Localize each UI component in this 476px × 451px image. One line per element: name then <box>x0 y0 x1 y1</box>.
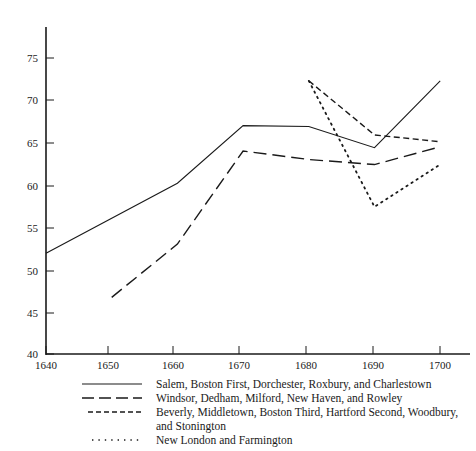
chart-legend: Salem, Boston First, Dorchester, Roxbury… <box>80 377 472 447</box>
x-tick-label-1700: 1700 <box>429 359 452 371</box>
legend-label-windsor: Windsor, Dedham, Milford, New Haven, and… <box>156 391 402 405</box>
legend-item-windsor: Windsor, Dedham, Milford, New Haven, and… <box>80 391 472 405</box>
legend-label-salem: Salem, Boston First, Dorchester, Roxbury… <box>156 377 431 391</box>
legend-item-salem: Salem, Boston First, Dorchester, Roxbury… <box>80 377 472 391</box>
x-axis-ticks <box>46 346 440 354</box>
y-tick-label-50: 50 <box>27 265 39 277</box>
x-tick-label-1660: 1660 <box>162 359 185 371</box>
x-tick-label-1690: 1690 <box>362 359 385 371</box>
legend-label-beverly: Beverly, Middletown, Boston Third, Hartf… <box>156 405 458 419</box>
legend-item-beverly: Beverly, Middletown, Boston Third, Hartf… <box>80 405 472 419</box>
x-tick-label-1670: 1670 <box>228 359 251 371</box>
data-series-group <box>46 81 440 298</box>
legend-key-solid <box>80 377 156 391</box>
chart-figure: 75 70 65 60 55 50 45 40 1640 1650 1660 1… <box>0 0 476 451</box>
y-tick-label-75: 75 <box>27 52 39 64</box>
legend-item-newlondon: New London and Farmington <box>80 433 472 447</box>
y-tick-label-70: 70 <box>27 94 39 106</box>
legend-key-long-dash <box>80 391 156 405</box>
series-line-4 <box>309 81 440 207</box>
y-tick-label-65: 65 <box>27 137 39 149</box>
y-tick-label-60: 60 <box>27 180 39 192</box>
y-tick-label-55: 55 <box>27 222 39 234</box>
legend-label-newlondon: New London and Farmington <box>156 433 292 447</box>
series-line-2 <box>112 147 441 298</box>
series-line-1 <box>46 81 440 254</box>
axis-lines <box>46 27 470 355</box>
x-tick-label-1640: 1640 <box>35 359 58 371</box>
x-tick-label-1680: 1680 <box>295 359 318 371</box>
legend-key-dotted <box>80 433 156 447</box>
legend-key-short-dash <box>80 405 156 419</box>
x-tick-label-1650: 1650 <box>97 359 120 371</box>
y-tick-label-45: 45 <box>27 307 39 319</box>
y-axis-ticks <box>46 58 54 354</box>
legend-label-beverly-cont: and Stonington <box>156 419 472 433</box>
